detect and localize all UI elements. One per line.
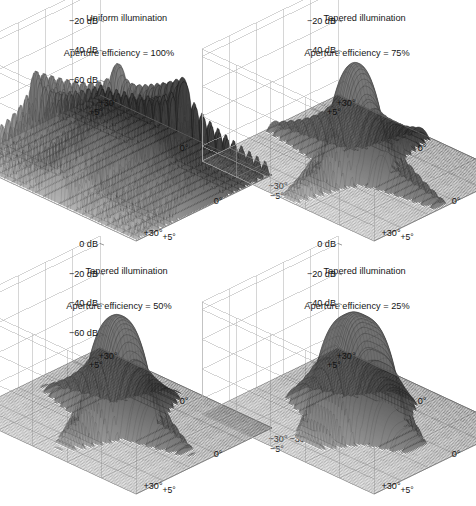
surface-plot-svg: 0 dB−20 dB−40 dB+30°+5°0°−30°−30°−5°−5°0… <box>238 253 476 506</box>
z-axis-tick-label: −40 dB <box>69 45 98 55</box>
z-axis-tick-label: −20 dB <box>307 269 336 279</box>
plot-panel: Tapered illumination Aperture efficiency… <box>0 253 238 506</box>
x-axis-tick-label: +30° <box>143 481 162 491</box>
y-axis-tick-label: +5° <box>327 107 341 117</box>
x-axis-tick-label: +30° <box>381 481 400 491</box>
y-axis-tick-label: +5° <box>162 232 175 242</box>
y-axis-tick-label: 0° <box>452 196 461 206</box>
radiation-pattern-surface <box>202 62 476 241</box>
plot-panel: Tapered illumination Aperture efficiency… <box>238 0 476 253</box>
z-axis-tick-label: −40 dB <box>307 298 336 308</box>
x-axis-tick-label: +30° <box>143 228 162 238</box>
y-axis-tick-label: 0° <box>452 449 461 459</box>
surface-plot-svg: 0 dB−20 dB−40 dB−60 dB+30°+5°0°−30°−30°−… <box>0 253 238 506</box>
y-axis-tick-label: +5° <box>89 107 103 117</box>
y-axis-tick-label: 0° <box>214 449 223 459</box>
x-axis-tick-label: 0° <box>418 396 427 406</box>
z-axis-tick-label: 0 dB <box>317 239 336 249</box>
z-axis-tick-label: −40 dB <box>69 298 98 308</box>
x-axis-tick-label: 0° <box>418 143 427 153</box>
y-axis-tick-label: +5° <box>89 360 103 370</box>
z-axis-tick-label: 0 dB <box>79 239 98 249</box>
plot-panel: Uniform illumination Aperture efficiency… <box>0 0 238 253</box>
surface-plot-svg: 0 dB−20 dB−40 dB−60 dB+30°+5°0°−30°−30°−… <box>0 0 238 253</box>
z-axis-tick-label: −20 dB <box>69 269 98 279</box>
x-axis-tick-label: 0° <box>180 396 189 406</box>
plot-panel: Tapered illumination Aperture efficiency… <box>238 253 476 506</box>
surface-plot: 0 dB−20 dB−40 dB−60 dB+30°+5°0°−30°−30°−… <box>0 253 238 506</box>
z-axis: 0 dB−20 dB−40 dB <box>307 0 342 55</box>
x-axis-tick-label: +30° <box>381 228 400 238</box>
surface-plot: 0 dB−20 dB−40 dB−60 dB+30°+5°0°−30°−30°−… <box>0 0 238 253</box>
surface-plot-svg: 0 dB−20 dB−40 dB+30°+5°0°−30°−30°−5°−5°0… <box>238 0 476 253</box>
y-axis-tick-label: +5° <box>327 360 341 370</box>
y-axis-tick-label: 0° <box>214 196 223 206</box>
z-axis-tick-label: −20 dB <box>307 16 336 26</box>
figure-root: Uniform illumination Aperture efficiency… <box>0 0 476 506</box>
radiation-pattern-surface <box>202 312 476 494</box>
surface-plot: 0 dB−20 dB−40 dB+30°+5°0°−30°−30°−5°−5°0… <box>238 0 476 253</box>
z-axis-tick-label: −40 dB <box>307 45 336 55</box>
y-axis-tick-label: +5° <box>400 232 413 242</box>
z-axis-tick-label: −20 dB <box>69 16 98 26</box>
surface-plot: 0 dB−20 dB−40 dB+30°+5°0°−30°−30°−5°−5°0… <box>238 253 476 506</box>
x-axis-tick-label: 0° <box>180 143 189 153</box>
z-axis-tick-label: −60 dB <box>69 75 98 85</box>
z-axis-tick-label: −60 dB <box>69 328 98 338</box>
y-axis-tick-label: +5° <box>162 485 175 495</box>
z-axis: 0 dB−20 dB−40 dB−60 dB <box>69 0 104 85</box>
y-axis-tick-label: +5° <box>400 485 413 495</box>
z-axis: 0 dB−20 dB−40 dB−60 dB <box>69 239 104 339</box>
